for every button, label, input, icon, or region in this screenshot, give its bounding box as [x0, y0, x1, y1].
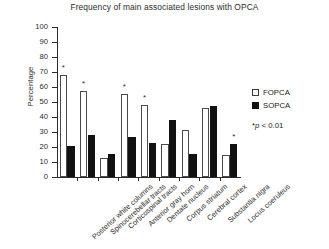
legend-swatch-open-square-icon	[252, 89, 259, 96]
bar-fopca	[141, 105, 148, 177]
y-axis-tick-label: 70	[8, 68, 48, 76]
bar-sopca	[169, 120, 176, 177]
legend-label-fopca: FOPCA	[263, 88, 290, 97]
bar-sopca	[67, 146, 74, 178]
x-axis-tick	[220, 177, 221, 181]
x-axis-tick	[77, 177, 78, 181]
y-axis-tick-label: 40	[8, 113, 48, 121]
legend-swatch-filled-square-icon	[252, 102, 259, 109]
bar-fopca	[182, 130, 189, 177]
x-axis-tick	[98, 177, 99, 181]
chart-container: Frequency of main associated lesions wit…	[0, 0, 329, 249]
bar-fopca	[121, 94, 128, 177]
bar-fopca	[161, 144, 168, 177]
legend: FOPCA SOPCA *p < 0.01	[252, 86, 290, 130]
significance-marker: *	[58, 64, 68, 72]
significance-marker: *	[119, 83, 129, 91]
y-axis-tick-label: 60	[8, 83, 48, 91]
legend-item-sopca: SOPCA	[252, 99, 290, 112]
bar-fopca	[202, 108, 209, 177]
legend-significance-note: *p < 0.01	[252, 121, 290, 130]
y-axis-tick-label: 100	[8, 23, 48, 31]
legend-item-fopca: FOPCA	[252, 86, 290, 99]
bar-sopca	[149, 143, 156, 177]
significance-marker: *	[229, 133, 239, 141]
chart-title: Frequency of main associated lesions wit…	[0, 2, 329, 12]
significance-marker: *	[79, 80, 89, 88]
y-axis-tick-label: 30	[8, 128, 48, 136]
bar-sopca	[128, 137, 135, 178]
y-axis-tick-label: 20	[8, 143, 48, 151]
bar-fopca	[60, 75, 67, 177]
legend-note-p: p	[255, 121, 259, 130]
legend-label-sopca: SOPCA	[263, 101, 290, 110]
bar-fopca	[100, 158, 107, 178]
bar-fopca	[80, 91, 87, 177]
x-axis-tick	[138, 177, 139, 181]
y-axis-tick	[52, 177, 57, 178]
significance-marker: *	[140, 94, 150, 102]
x-axis-tick	[199, 177, 200, 181]
x-axis-line	[57, 177, 241, 178]
bar-sopca	[88, 135, 95, 177]
legend-note-rest: < 0.01	[262, 121, 284, 130]
plot-area	[57, 27, 240, 177]
x-axis-tick	[159, 177, 160, 181]
bar-sopca	[210, 106, 217, 177]
bar-sopca	[108, 154, 115, 177]
y-axis-tick-label: 50	[8, 98, 48, 106]
y-axis-tick-label: 10	[8, 158, 48, 166]
y-axis-tick-label: 80	[8, 53, 48, 61]
y-axis-tick-label: 0	[8, 173, 48, 181]
bar-fopca	[222, 155, 229, 177]
bar-sopca	[230, 144, 237, 177]
y-axis-tick-label: 90	[8, 38, 48, 46]
x-axis-tick	[118, 177, 119, 181]
x-axis-tick	[179, 177, 180, 181]
bar-sopca	[189, 154, 196, 177]
